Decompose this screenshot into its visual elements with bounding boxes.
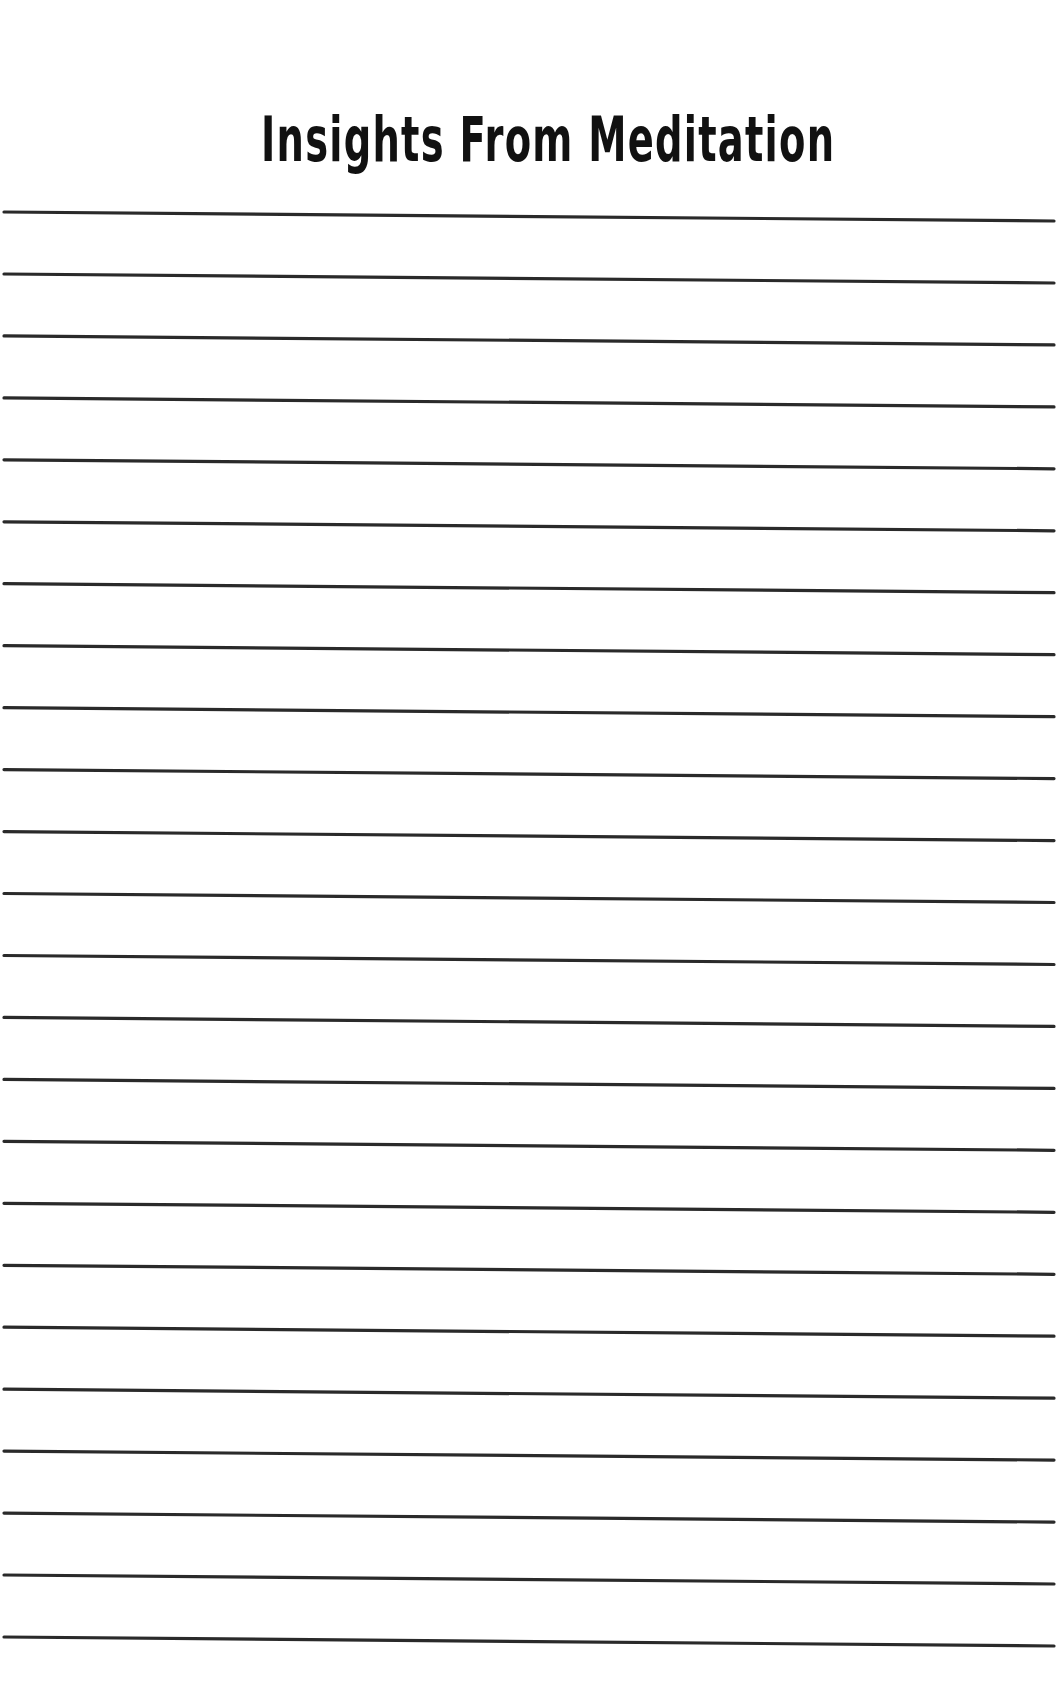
ruled-line (4, 522, 1054, 531)
ruled-line (4, 770, 1054, 779)
ruled-line (4, 274, 1054, 283)
ruled-line (4, 336, 1054, 345)
ruled-line (4, 1265, 1054, 1274)
ruled-line (4, 460, 1054, 469)
ruled-line (4, 1451, 1054, 1460)
ruled-line (4, 1637, 1054, 1646)
ruled-line (4, 1017, 1054, 1026)
ruled-line (4, 1513, 1054, 1522)
ruled-lines (0, 0, 1059, 1698)
ruled-line (4, 1203, 1054, 1212)
journal-page: Insights From Meditation (0, 0, 1059, 1698)
ruled-line (4, 1389, 1054, 1398)
ruled-line (4, 708, 1054, 717)
ruled-line (4, 646, 1054, 655)
ruled-line (4, 1327, 1054, 1336)
ruled-line (4, 832, 1054, 841)
ruled-line (4, 398, 1054, 407)
ruled-line (4, 1575, 1054, 1584)
ruled-line (4, 212, 1054, 221)
ruled-line (4, 1079, 1054, 1088)
ruled-line (4, 956, 1054, 965)
ruled-line (4, 894, 1054, 903)
ruled-line (4, 584, 1054, 593)
ruled-line (4, 1141, 1054, 1150)
